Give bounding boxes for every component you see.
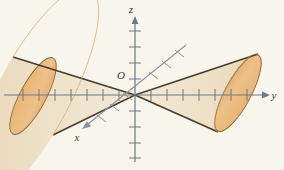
coordinate-figure: z y x O [0, 0, 284, 170]
z-axis-label: z [128, 3, 134, 15]
figure-container: z y x O [0, 0, 284, 170]
origin-label: O [117, 69, 125, 81]
x-axis-label: x [74, 131, 80, 143]
y-axis-label: y [271, 89, 277, 101]
